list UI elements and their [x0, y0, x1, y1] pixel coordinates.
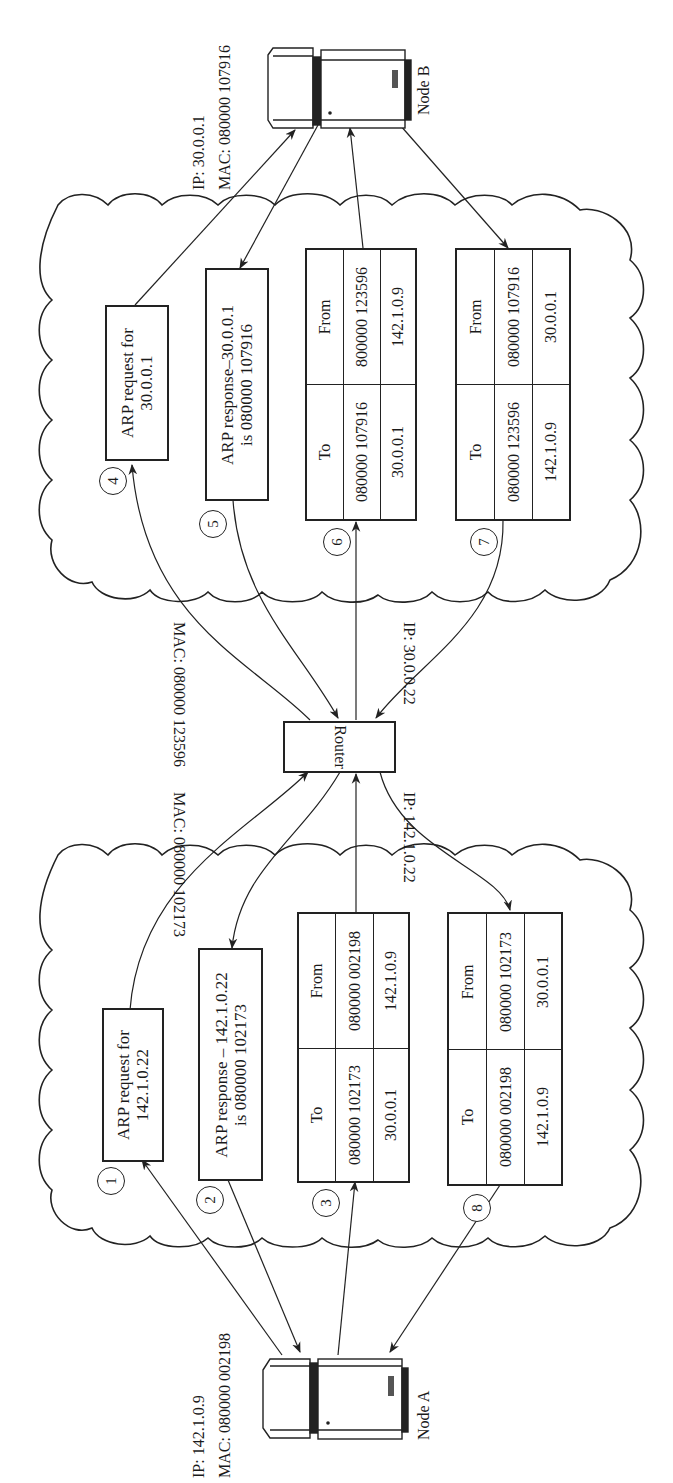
frame-step-8: From 080000 102173 30.0.0.1 To 080000 00…	[447, 912, 563, 1186]
arp-request-step-1: ARP request for 142.1.0.22	[102, 1008, 164, 1162]
arp-line2: 30.0.0.1	[137, 328, 156, 438]
node-a-computer-icon	[263, 1359, 408, 1439]
from-mac: 080000 102173	[497, 932, 515, 1032]
to-mac: 080000 002198	[497, 1067, 515, 1167]
to-ip: 142.1.0.9	[542, 422, 560, 482]
arrow-step2-to-node-a	[228, 1180, 300, 1352]
step-badge-6: 6	[323, 528, 351, 556]
from-header: From	[467, 300, 485, 335]
to-ip: 142.1.0.9	[534, 1087, 552, 1147]
arp-line2: 142.1.0.22	[133, 1030, 152, 1140]
step-badge-2: 2	[196, 1186, 224, 1214]
from-ip: 142.1.0.9	[382, 951, 400, 1011]
step-badge-3: 3	[312, 1189, 340, 1217]
to-header: To	[467, 444, 485, 461]
from-ip: 30.0.0.1	[542, 291, 560, 343]
to-ip: 30.0.0.1	[389, 426, 407, 478]
step-badge-5: 5	[199, 510, 227, 538]
arp-response-step-5: ARP response–30.0.0.1 is 080000 107916	[205, 268, 269, 501]
from-mac: 080000 107916	[505, 267, 523, 367]
frame-step-7: From 080000 107916 30.0.0.1 To 080000 12…	[455, 248, 571, 521]
node-a-name: Node A	[415, 1391, 433, 1440]
arrow-step5-to-router	[233, 500, 338, 718]
node-a-mac-label: MAC: 080000 002198	[216, 1333, 234, 1478]
arp-line1: ARP response–30.0.0.1	[218, 305, 237, 465]
to-mac: 080000 107916	[353, 402, 371, 502]
arp-line1: ARP request for	[114, 1030, 133, 1140]
router-ip-network-a: IP: 142.1.0.22	[400, 792, 418, 883]
arp-request-step-4: ARP request for 30.0.0.1	[105, 305, 169, 461]
node-b-computer-icon	[268, 48, 411, 128]
router-mac-network-b: MAC: 080000 123596	[170, 622, 188, 767]
arrow-router-to-step4	[132, 465, 310, 720]
from-header: From	[316, 300, 334, 335]
from-ip: 142.1.0.9	[389, 287, 407, 347]
to-ip: 30.0.0.1	[382, 1089, 400, 1141]
node-b-ip-label: IP: 30.0.0.1	[190, 115, 208, 190]
node-b-name: Node B	[415, 66, 433, 115]
node-b-mac-label: MAC: 080000 107916	[216, 45, 234, 190]
frame-step-6: From 800000 123596 142.1.0.9 To 080000 1…	[305, 248, 417, 521]
from-header: From	[308, 964, 326, 999]
to-mac: 080000 102173	[346, 1065, 364, 1165]
from-ip: 30.0.0.1	[534, 956, 552, 1008]
arrow-node-b-to-step5	[240, 125, 318, 268]
arrow-node-a-to-step3	[338, 1182, 355, 1355]
step-badge-4: 4	[99, 467, 127, 495]
arp-response-step-2: ARP response – 142.1.0.22 is 080000 1021…	[198, 948, 263, 1181]
step-badge-8: 8	[463, 1194, 491, 1222]
from-mac: 080000 002198	[346, 931, 364, 1031]
arrow-step6-to-node-b	[350, 128, 363, 248]
arp-line1: ARP response – 142.1.0.22	[212, 972, 231, 1157]
router-label: Router	[331, 725, 349, 769]
arp-line2: is 080000 102173	[231, 972, 250, 1157]
frame-step-3: From 080000 002198 142.1.0.9 To 080000 1…	[297, 912, 410, 1183]
arp-line2: is 080000 107916	[237, 305, 256, 465]
arrow-node-b-to-step7	[400, 125, 508, 248]
from-header: From	[459, 964, 477, 999]
step-badge-7: 7	[470, 528, 498, 556]
to-header: To	[459, 1109, 477, 1126]
node-a-ip-label: IP: 142.1.0.9	[190, 1395, 208, 1478]
to-header: To	[316, 444, 334, 461]
to-header: To	[308, 1107, 326, 1124]
from-mac: 800000 123596	[353, 267, 371, 367]
router-ip-network-b: IP: 30.0.0.22	[400, 622, 418, 705]
arp-line1: ARP request for	[118, 328, 137, 438]
router-mac-network-a: MAC: 080000 102173	[170, 792, 188, 937]
to-mac: 080000 123596	[505, 402, 523, 502]
step-badge-1: 1	[97, 1167, 125, 1195]
router-box: Router	[283, 721, 396, 773]
